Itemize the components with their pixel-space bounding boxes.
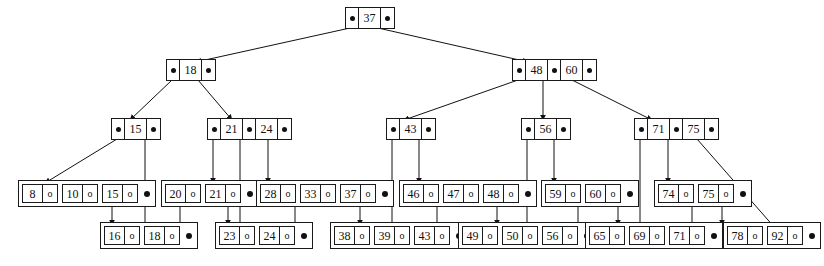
leaf-key: 28 [261, 185, 281, 202]
record-pointer-icon: o [566, 185, 580, 202]
node4860-key-1: 60 [561, 60, 583, 80]
leaf-entry: 39 o [374, 226, 410, 245]
leaf-entry: 16 o [104, 226, 140, 245]
node18-pointer-1 [202, 60, 215, 80]
record-pointer-icon: o [424, 185, 438, 202]
node7175-pointer-0 [635, 119, 648, 139]
node15-pointer-0 [112, 119, 125, 139]
node7175-pointer-1 [670, 119, 683, 139]
record-pointer-icon: o [321, 185, 335, 202]
leaf-key: 71 [670, 227, 690, 244]
node7175-pointer-2 [705, 119, 718, 139]
record-pointer-icon: o [748, 227, 762, 244]
node15-key-0: 15 [125, 119, 147, 139]
leaf-node-8-10-15: 8 o 10 o 15 o [18, 180, 156, 207]
leaf-node-49-50-56: 49 o 50 o 56 o [458, 222, 596, 249]
leaf-entry: 59 o [545, 184, 581, 203]
record-pointer-icon: o [355, 227, 369, 244]
leaf-entry: 74 o [658, 184, 694, 203]
record-pointer-icon: o [606, 185, 620, 202]
node2124-pointer-1 [243, 119, 256, 139]
node4860-pointer-2 [583, 60, 596, 80]
leaf-entry: 92 o [767, 226, 803, 245]
root-node: 37 [345, 7, 395, 29]
leaf-node-23-24: 23 o 24 o [215, 222, 313, 249]
record-pointer-icon: o [464, 185, 478, 202]
leaf-key: 15 [103, 185, 123, 202]
root-pointer-right [381, 8, 394, 28]
leaf-entry: 15 o [102, 184, 138, 203]
leaf-key: 18 [145, 227, 165, 244]
leaf-key: 10 [63, 185, 83, 202]
leaf-key: 8 [23, 185, 43, 202]
leaf-entry: 24 o [259, 226, 295, 245]
internal-node-71-75: 71 75 [634, 118, 719, 140]
internal-node-56: 56 [521, 118, 571, 140]
record-pointer-icon: o [504, 185, 518, 202]
node2124-key-1: 24 [256, 119, 278, 139]
leaf-entry: 21 o [205, 184, 241, 203]
leaf-node-38-39-43: 38 o 39 o 43 o [330, 222, 468, 249]
node43-pointer-0 [387, 119, 400, 139]
leaf-key: 75 [699, 185, 719, 202]
leaf-key: 21 [206, 185, 226, 202]
leaf-entry: 28 o [260, 184, 296, 203]
leaf-entry: 71 o [669, 226, 705, 245]
leaf-node-16-18: 16 o 18 o [100, 222, 198, 249]
leaf-node-65-69-71: 65 o 69 o 71 o [585, 222, 723, 249]
node56-key-0: 56 [535, 119, 557, 139]
leaf-entry: 65 o [589, 226, 625, 245]
record-pointer-icon: o [788, 227, 802, 244]
root-pointer-left [346, 8, 359, 28]
record-pointer-icon: o [719, 185, 733, 202]
leaf-entry: 75 o [698, 184, 734, 203]
record-pointer-icon: o [125, 227, 139, 244]
leaf-key: 92 [768, 227, 788, 244]
next-leaf-pointer [299, 226, 309, 245]
internal-node-43: 43 [386, 118, 436, 140]
leaf-key: 24 [260, 227, 280, 244]
node18-pointer-0 [167, 60, 180, 80]
leaf-entry: 33 o [300, 184, 336, 203]
node7175-key-0: 71 [648, 119, 670, 139]
record-pointer-icon: o [240, 227, 254, 244]
record-pointer-icon: o [123, 185, 137, 202]
leaf-key: 33 [301, 185, 321, 202]
leaf-entry: 20 o [165, 184, 201, 203]
record-pointer-icon: o [483, 227, 497, 244]
edges-root-to-level1 [196, 28, 528, 62]
next-leaf-pointer [184, 226, 194, 245]
record-pointer-icon: o [280, 227, 294, 244]
record-pointer-icon: o [226, 185, 240, 202]
record-pointer-icon: o [563, 227, 577, 244]
record-pointer-icon: o [186, 185, 200, 202]
node56-pointer-1 [557, 119, 570, 139]
leaf-node-78-92: 78 o 92 o [723, 222, 821, 249]
leaf-node-28-33-37: 28 o 33 o 37 o [256, 180, 394, 207]
record-pointer-icon: o [690, 227, 704, 244]
leaf-entry: 43 o [414, 226, 450, 245]
leaf-key: 38 [335, 227, 355, 244]
leaf-key: 65 [590, 227, 610, 244]
leaf-key: 39 [375, 227, 395, 244]
node4860-pointer-0 [513, 60, 526, 80]
leaf-key: 60 [586, 185, 606, 202]
leaf-key: 74 [659, 185, 679, 202]
leaf-key: 37 [341, 185, 361, 202]
leaf-key: 69 [630, 227, 650, 244]
next-leaf-pointer [245, 184, 255, 203]
next-leaf-pointer [142, 184, 152, 203]
leaf-entry: 60 o [585, 184, 621, 203]
leaf-entry: 23 o [219, 226, 255, 245]
leaf-key: 46 [404, 185, 424, 202]
leaf-key: 56 [543, 227, 563, 244]
leaf-key: 50 [503, 227, 523, 244]
btree-diagram: 37 18 48 60 15 21 24 43 56 71 [0, 0, 824, 266]
record-pointer-icon: o [361, 185, 375, 202]
node2124-key-0: 21 [221, 119, 243, 139]
internal-node-48-60: 48 60 [512, 59, 597, 81]
leaf-key: 48 [484, 185, 504, 202]
leaf-node-59-60: 59 o 60 o [541, 180, 639, 207]
leaf-entry: 49 o [462, 226, 498, 245]
leaf-entry: 56 o [542, 226, 578, 245]
